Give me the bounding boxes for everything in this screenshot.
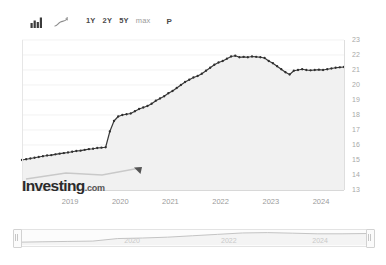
- data-point-marker: [167, 92, 169, 94]
- data-point-marker: [184, 81, 186, 83]
- data-point-marker: [121, 114, 123, 116]
- data-point-marker: [180, 84, 182, 86]
- data-point-marker: [38, 156, 40, 158]
- data-point-marker: [142, 106, 144, 108]
- data-point-marker: [276, 65, 278, 67]
- main-chart-svg: [0, 36, 386, 212]
- x-axis-tick-label: 2020: [100, 197, 140, 206]
- data-point-marker: [263, 57, 265, 59]
- data-point-marker: [205, 70, 207, 72]
- range-navigator[interactable]: 202020222024: [14, 228, 372, 250]
- bar-chart-icon-glyph: [30, 17, 43, 28]
- data-point-marker: [318, 69, 320, 71]
- data-point-marker: [201, 73, 203, 75]
- pattern-tool-button[interactable]: P: [167, 17, 172, 26]
- data-point-marker: [159, 97, 161, 99]
- range-button-5y[interactable]: 5Y: [119, 16, 129, 26]
- data-point-marker: [284, 71, 286, 73]
- y-axis-tick-label: 20: [352, 81, 368, 89]
- y-axis-tick-label: 19: [352, 96, 368, 104]
- data-point-marker: [272, 62, 274, 64]
- data-point-marker: [247, 56, 249, 58]
- bar-chart-icon[interactable]: [28, 14, 44, 28]
- data-point-marker: [322, 69, 324, 71]
- data-point-marker: [88, 148, 90, 150]
- data-point-marker: [217, 61, 219, 63]
- data-point-marker: [334, 67, 336, 69]
- navigator-left-handle-grip-icon: [14, 230, 19, 245]
- data-point-marker: [33, 157, 35, 159]
- data-point-marker: [171, 90, 173, 92]
- y-axis-tick-label: 23: [352, 36, 368, 44]
- data-point-marker: [125, 113, 127, 115]
- data-point-marker: [238, 56, 240, 58]
- navigator-tick-label: 2020: [112, 237, 152, 244]
- data-point-marker: [309, 69, 311, 71]
- y-axis-tick-label: 16: [352, 141, 368, 149]
- data-point-marker: [222, 60, 224, 62]
- data-point-marker: [134, 110, 136, 112]
- main-chart[interactable]: 1314151617181920212223 20192020202120222…: [0, 36, 386, 212]
- y-axis-tick-label: 18: [352, 111, 368, 119]
- data-point-marker: [155, 100, 157, 102]
- data-point-marker: [268, 60, 270, 62]
- data-point-marker: [63, 152, 65, 154]
- data-point-marker: [301, 68, 303, 70]
- x-axis-tick-label: 2023: [251, 197, 291, 206]
- y-axis-tick-label: 13: [352, 186, 368, 194]
- y-axis-tick-label: 22: [352, 51, 368, 59]
- data-point-marker: [163, 95, 165, 97]
- data-point-marker: [176, 87, 178, 89]
- data-point-marker: [92, 148, 94, 150]
- investing-chart-widget: 1Y 2Y 5Y max P 1314151617181920212223 20…: [0, 0, 386, 265]
- data-point-marker: [280, 68, 282, 70]
- data-point-marker: [75, 150, 77, 152]
- data-point-marker: [209, 67, 211, 69]
- range-button-2y[interactable]: 2Y: [103, 16, 113, 26]
- data-point-marker: [150, 103, 152, 105]
- data-point-marker: [42, 155, 44, 157]
- data-point-marker: [79, 150, 81, 152]
- data-point-marker: [29, 157, 31, 159]
- data-point-marker: [259, 56, 261, 58]
- line-chart-icon[interactable]: [53, 14, 69, 28]
- data-point-marker: [242, 56, 244, 58]
- data-point-marker: [58, 153, 60, 155]
- data-point-marker: [330, 67, 332, 69]
- data-point-marker: [293, 70, 295, 72]
- data-point-marker: [138, 108, 140, 110]
- navigator-tick-label: 2022: [209, 237, 249, 244]
- data-point-marker: [117, 115, 119, 117]
- data-point-marker: [84, 149, 86, 151]
- data-point-marker: [339, 66, 341, 68]
- range-button-1y[interactable]: 1Y: [86, 16, 96, 26]
- data-point-marker: [305, 69, 307, 71]
- x-axis-tick-label: 2024: [301, 197, 341, 206]
- data-point-marker: [54, 153, 56, 155]
- line-chart-icon-glyph: [54, 17, 68, 28]
- data-point-marker: [226, 58, 228, 60]
- data-point-marker: [314, 69, 316, 71]
- data-point-marker: [326, 68, 328, 70]
- data-point-marker: [104, 146, 106, 148]
- range-button-max[interactable]: max: [136, 16, 151, 26]
- data-point-marker: [213, 64, 215, 66]
- data-point-marker: [100, 147, 102, 149]
- x-axis-tick-label: 2022: [201, 197, 241, 206]
- navigator-left-handle[interactable]: [13, 229, 22, 248]
- navigator-right-handle-grip-icon: [367, 230, 372, 245]
- data-point-marker: [25, 158, 27, 160]
- x-axis-tick-label: 2019: [50, 197, 90, 206]
- y-axis-tick-label: 21: [352, 66, 368, 74]
- navigator-right-handle[interactable]: [366, 229, 375, 248]
- data-point-marker: [192, 76, 194, 78]
- data-point-marker: [234, 55, 236, 57]
- data-point-marker: [96, 147, 98, 149]
- y-axis-tick-label: 17: [352, 126, 368, 134]
- data-point-marker: [109, 130, 111, 132]
- data-point-marker: [71, 151, 73, 153]
- data-point-marker: [288, 73, 290, 75]
- chart-toolbar: 1Y 2Y 5Y max P: [0, 8, 386, 34]
- data-point-marker: [255, 56, 257, 58]
- data-point-marker: [251, 55, 253, 57]
